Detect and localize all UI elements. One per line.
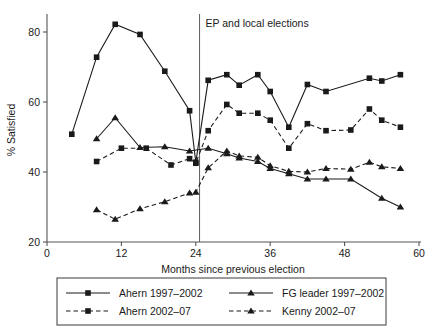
- data-point: [204, 145, 212, 151]
- data-point: [223, 148, 231, 154]
- data-point: [236, 82, 242, 88]
- data-point: [366, 159, 374, 165]
- legend-label: Ahern 2002–07: [119, 305, 191, 317]
- data-point: [379, 117, 385, 123]
- data-point: [367, 75, 373, 81]
- series-line-3: [97, 118, 401, 207]
- data-point: [378, 195, 386, 201]
- data-point: [111, 216, 119, 222]
- legend-label: Ahern 1997–2002: [119, 287, 203, 299]
- legend-label: FG leader 1997–2002: [282, 287, 384, 299]
- data-point: [161, 143, 169, 149]
- data-point: [93, 206, 101, 212]
- data-point: [322, 165, 330, 171]
- data-point: [305, 82, 311, 88]
- legend-marker-square: [85, 308, 91, 314]
- legend-entry-2[interactable]: FG leader 1997–2002: [229, 287, 384, 299]
- data-point: [267, 89, 273, 95]
- legend-entry-1[interactable]: Ahern 1997–2002: [66, 287, 203, 299]
- y-tick-label: 60: [28, 96, 40, 108]
- legend-label: Kenny 2002–07: [282, 305, 356, 317]
- data-point: [119, 145, 125, 151]
- data-point: [305, 121, 311, 127]
- legend-entry-3[interactable]: Ahern 2002–07: [66, 305, 191, 317]
- data-point: [205, 78, 211, 84]
- y-tick-label: 80: [28, 26, 40, 38]
- data-point: [397, 165, 405, 171]
- data-point: [255, 72, 261, 78]
- series-1: [69, 22, 403, 166]
- series-line-2: [97, 104, 401, 165]
- data-point: [193, 160, 199, 166]
- data-point: [112, 22, 118, 28]
- data-point: [285, 168, 293, 174]
- series-line-1: [72, 24, 401, 162]
- data-point: [286, 145, 292, 151]
- event-annotation-label: EP and local elections: [206, 17, 309, 29]
- x-tick-label: 0: [44, 247, 50, 259]
- data-point: [286, 124, 292, 130]
- data-point: [266, 162, 274, 168]
- data-point: [187, 108, 193, 114]
- data-point: [168, 162, 174, 168]
- y-tick-label: 40: [28, 166, 40, 178]
- data-point: [94, 54, 100, 60]
- legend-box: [57, 278, 386, 325]
- data-point: [94, 159, 100, 165]
- x-tick-label: 36: [264, 247, 276, 259]
- data-point: [398, 72, 404, 78]
- y-tick-label: 20: [28, 236, 40, 248]
- data-point: [192, 189, 200, 195]
- data-point: [143, 145, 149, 151]
- data-point: [111, 114, 119, 120]
- data-point: [236, 110, 242, 116]
- legend-group: Ahern 1997–2002FG leader 1997–2002Ahern …: [57, 278, 386, 325]
- data-point: [136, 205, 144, 211]
- data-point: [347, 166, 355, 172]
- series-2: [94, 102, 403, 168]
- data-point: [162, 68, 168, 74]
- data-point: [379, 78, 385, 84]
- data-point: [205, 128, 211, 134]
- data-point: [224, 102, 230, 108]
- x-tick-label: 60: [413, 247, 425, 259]
- series-3: [93, 114, 404, 209]
- x-tick-label: 12: [116, 247, 128, 259]
- data-point: [398, 124, 404, 130]
- data-point: [323, 128, 329, 134]
- y-axis-label: % Satisfied: [5, 104, 17, 157]
- data-point: [137, 32, 143, 38]
- chart-figure: EP and local elections 20406080012243648…: [0, 0, 440, 333]
- data-point: [397, 204, 405, 210]
- data-point: [187, 156, 193, 162]
- data-point: [267, 117, 273, 123]
- event-line-group: EP and local elections: [200, 14, 309, 242]
- x-axis-label: Months since previous election: [161, 263, 305, 275]
- data-point: [224, 72, 230, 78]
- data-point: [69, 131, 75, 137]
- data-point: [255, 110, 261, 116]
- data-point: [367, 106, 373, 112]
- line-chart: EP and local elections 20406080012243648…: [0, 0, 440, 333]
- series-group: [69, 22, 404, 222]
- x-tick-label: 48: [339, 247, 351, 259]
- data-point: [323, 89, 329, 95]
- series-4: [93, 148, 404, 222]
- legend-entry-4[interactable]: Kenny 2002–07: [229, 305, 356, 317]
- plot-frame: [47, 14, 421, 242]
- legend-marker-square: [85, 290, 91, 296]
- x-tick-label: 24: [190, 247, 202, 259]
- data-point: [348, 127, 354, 133]
